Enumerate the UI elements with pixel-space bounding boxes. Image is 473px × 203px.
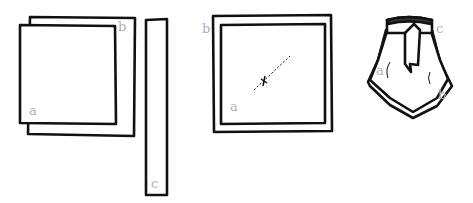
label-c: c: [436, 22, 443, 35]
label-a: a: [376, 64, 384, 77]
label-a: a: [29, 104, 37, 117]
tie-ribbon: [405, 24, 420, 72]
label-b: b: [202, 22, 210, 35]
label-a: a: [230, 100, 238, 113]
label-b: b: [438, 88, 446, 101]
strip-c: [146, 19, 167, 195]
figure-1: [20, 17, 167, 195]
label-c: c: [151, 177, 158, 190]
figure-2: [213, 15, 332, 132]
label-b: b: [118, 20, 126, 33]
diagram-canvas: b a c b a c a b: [0, 0, 473, 203]
